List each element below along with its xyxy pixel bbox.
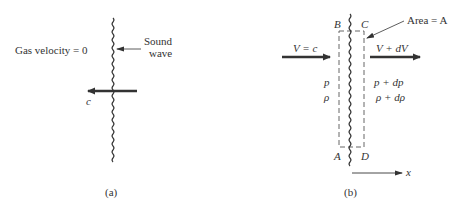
inflow-velocity-label: V = c [293, 42, 317, 54]
downstream-density-label: ρ + dρ [375, 91, 405, 103]
sound-wave-line-b [349, 14, 351, 166]
corner-a-label: A [333, 150, 341, 162]
sound-wave-label-line2: wave [149, 47, 172, 59]
outflow-velocity-label: V + dV [376, 42, 409, 54]
corner-c-label: C [361, 18, 369, 30]
corner-b-label: B [334, 18, 341, 30]
sound-wave-label-line1: Sound [144, 35, 173, 47]
caption-b: (b) [344, 186, 357, 199]
upstream-density-label: ρ [323, 91, 329, 103]
caption-a: (a) [105, 186, 118, 199]
area-label: Area = A [407, 14, 447, 26]
panel-b: B C A D Area = A V = c V + dV p ρ p + dp… [282, 14, 447, 199]
sound-wave-diagram: Gas velocity = 0 Sound wave c (a) B C A … [0, 0, 467, 210]
panel-a: Gas velocity = 0 Sound wave c (a) [15, 18, 173, 199]
corner-d-label: D [360, 150, 369, 162]
gas-velocity-label: Gas velocity = 0 [15, 44, 88, 56]
wave-speed-label: c [86, 95, 91, 107]
upstream-pressure-label: p [323, 76, 330, 88]
area-pointer-arrow [367, 21, 404, 38]
x-axis-label: x [405, 166, 411, 178]
downstream-pressure-label: p + dp [373, 76, 404, 88]
